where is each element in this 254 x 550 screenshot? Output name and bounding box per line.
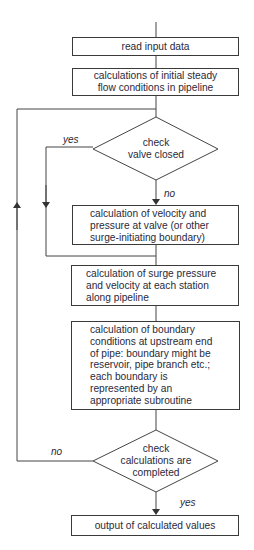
decision-check-complete: check calculations are completed bbox=[106, 443, 206, 478]
step-surge-pressure: calculation of surge pressure and veloci… bbox=[71, 265, 239, 306]
step-initial-steady-flow: calculations of initial steady flow cond… bbox=[72, 68, 239, 96]
decision-check-valve-line: valve closed bbox=[106, 149, 206, 161]
label-valve-yes: yes bbox=[63, 134, 79, 145]
label-complete-yes: yes bbox=[180, 497, 196, 508]
step-velocity-pressure-line: pressure at valve (or other bbox=[90, 220, 238, 232]
decision-check-complete-line: completed bbox=[106, 467, 206, 479]
step-read-input: read input data bbox=[72, 37, 239, 56]
step-boundary-conditions-line: conditions at upstream end bbox=[90, 336, 239, 348]
step-surge-pressure-line: calculation of surge pressure bbox=[86, 268, 238, 280]
step-velocity-pressure-line: surge-initiating boundary) bbox=[90, 232, 238, 244]
step-boundary-conditions-line: each boundary is bbox=[90, 371, 239, 383]
decision-check-complete-line: check bbox=[106, 443, 206, 455]
step-initial-steady-flow-line: flow conditions in pipeline bbox=[94, 82, 217, 94]
step-output: output of calculated values bbox=[71, 515, 239, 536]
step-boundary-conditions-line: reservoir, pipe branch etc.; bbox=[90, 359, 239, 371]
step-boundary-conditions-line: represented by an bbox=[90, 383, 239, 395]
decision-check-valve-line: check bbox=[106, 137, 206, 149]
decision-check-complete-line: calculations are bbox=[106, 455, 206, 467]
step-surge-pressure-line: and velocity at each station bbox=[86, 280, 238, 292]
step-velocity-pressure-line: calculation of velocity and bbox=[90, 208, 238, 220]
step-initial-steady-flow-line: calculations of initial steady bbox=[94, 70, 217, 82]
step-read-input-text: read input data bbox=[122, 41, 190, 53]
label-complete-no: no bbox=[51, 446, 62, 457]
decision-check-valve: check valve closed bbox=[106, 137, 206, 161]
step-boundary-conditions-line: appropriate subroutine bbox=[90, 395, 239, 407]
step-surge-pressure-line: along pipeline bbox=[86, 292, 238, 304]
step-boundary-conditions-line: calculation of boundary bbox=[90, 324, 239, 336]
label-valve-no: no bbox=[164, 188, 175, 199]
step-output-text: output of calculated values bbox=[95, 520, 216, 532]
step-velocity-pressure: calculation of velocity and pressure at … bbox=[72, 205, 239, 245]
step-boundary-conditions: calculation of boundary conditions at up… bbox=[71, 321, 240, 410]
step-boundary-conditions-line: of pipe: boundary might be bbox=[90, 348, 239, 360]
